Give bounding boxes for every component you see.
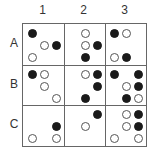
cell-a1 — [23, 24, 64, 65]
empty-circle-icon — [28, 134, 37, 143]
filled-circle-icon — [93, 110, 102, 119]
filled-circle-icon — [93, 41, 102, 50]
row-label-b: B — [8, 64, 20, 105]
filled-circle-icon — [134, 122, 143, 131]
empty-circle-icon — [122, 122, 131, 131]
filled-circle-icon — [93, 82, 102, 91]
row-label-c: C — [8, 104, 20, 145]
cell-c3 — [105, 105, 146, 146]
empty-circle-icon — [28, 53, 37, 62]
empty-circle-icon — [110, 134, 119, 143]
empty-circle-icon — [40, 70, 49, 79]
filled-circle-icon — [110, 29, 119, 38]
empty-circle-icon — [81, 41, 90, 50]
empty-circle-icon — [134, 134, 143, 143]
column-label-2: 2 — [63, 3, 104, 17]
filled-circle-icon — [52, 122, 61, 131]
cell-b3 — [105, 65, 146, 106]
filled-circle-icon — [52, 41, 61, 50]
cell-c1 — [23, 105, 64, 146]
filled-circle-icon — [110, 70, 119, 79]
empty-circle-icon — [81, 122, 90, 131]
filled-circle-icon — [134, 110, 143, 119]
filled-circle-icon — [134, 82, 143, 91]
cell-a3 — [105, 24, 146, 65]
empty-circle-icon — [81, 70, 90, 79]
cell-a2 — [64, 24, 105, 65]
empty-circle-icon — [122, 29, 131, 38]
row-label-a: A — [8, 23, 20, 64]
filled-circle-icon — [122, 94, 131, 103]
empty-circle-icon — [110, 53, 119, 62]
empty-circle-icon — [52, 94, 61, 103]
empty-circle-icon — [122, 82, 131, 91]
filled-circle-icon — [81, 94, 90, 103]
filled-circle-icon — [81, 53, 90, 62]
empty-circle-icon — [134, 94, 143, 103]
column-label-3: 3 — [104, 3, 145, 17]
cell-b2 — [64, 65, 105, 106]
empty-circle-icon — [122, 110, 131, 119]
dot-grid — [22, 23, 147, 147]
filled-circle-icon — [28, 70, 37, 79]
empty-circle-icon — [40, 41, 49, 50]
filled-circle-icon — [93, 70, 102, 79]
filled-circle-icon — [122, 53, 131, 62]
filled-circle-icon — [134, 70, 143, 79]
empty-circle-icon — [40, 82, 49, 91]
filled-circle-icon — [28, 29, 37, 38]
empty-circle-icon — [81, 29, 90, 38]
cell-c2 — [64, 105, 105, 146]
column-label-1: 1 — [22, 3, 63, 17]
cell-b1 — [23, 65, 64, 106]
empty-circle-icon — [52, 134, 61, 143]
